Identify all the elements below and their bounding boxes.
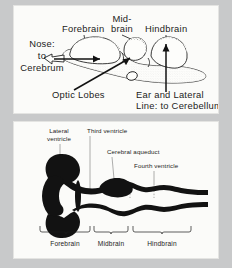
label-hindbrain: Hindbrain [145, 23, 187, 34]
brace-hindbrain [133, 226, 191, 234]
bottom-panel-ventricle-diagram: Lateral ventricle Third ventricle Cerebr… [14, 122, 218, 258]
label-nose-line1: Nose: [29, 38, 55, 49]
brace-label-hindbrain: Hindbrain [147, 240, 177, 247]
brace-label-forebrain: Forebrain [50, 240, 80, 247]
label-ear-line1: Ear and Lateral [136, 89, 204, 100]
label-cerebral-aqueduct: Cerebral aqueduct [107, 148, 160, 155]
figure-root: Forebrain Mid- brain Hindbrain [0, 0, 232, 268]
label-midbrain-line2: brain [111, 23, 133, 34]
brace-label-midbrain: Midbrain [98, 240, 125, 247]
label-ear-line2: Line: to Cerebellum [136, 100, 218, 111]
label-fourth-ventricle: Fourth ventricle [134, 162, 179, 169]
label-nose-line3: Cerebrum [20, 62, 64, 73]
top-panel-lateral-brain-view: Forebrain Mid- brain Hindbrain [14, 6, 218, 113]
cerebral-aqueduct-swelling [99, 178, 132, 197]
cerebellum-lobe [151, 37, 187, 68]
lateral-ventricle-left-bridge [42, 176, 64, 217]
label-optic-lobes: Optic Lobes [52, 89, 105, 100]
leader-cerebral-aqueduct [112, 157, 114, 179]
label-nose-line2: to [38, 50, 46, 61]
label-lateral-ventricle-line2: ventricle [47, 135, 71, 142]
label-third-ventricle: Third ventricle [87, 127, 128, 134]
label-forebrain: Forebrain [62, 23, 104, 34]
label-lateral-ventricle-line1: Lateral [49, 127, 69, 134]
brace-midbrain [94, 226, 128, 234]
ventricle-lower-contour [46, 202, 208, 238]
